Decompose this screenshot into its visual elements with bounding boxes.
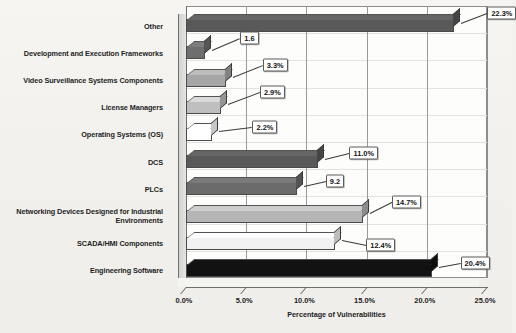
category-label-license-managers: License Managers xyxy=(0,103,163,112)
x-tick-label-100: 10.0% xyxy=(294,296,315,305)
bar-2 xyxy=(186,74,226,87)
data-label-scada-hmi-components: 12.4% xyxy=(366,239,395,252)
bar-6 xyxy=(186,182,297,195)
bar-top-face xyxy=(187,14,461,20)
gridline-15-0% xyxy=(367,6,368,278)
bar-top-face xyxy=(187,150,325,156)
x-tick-label-00: 0.0% xyxy=(176,296,193,305)
x-tick-mark xyxy=(240,287,247,294)
gridline-25-0% xyxy=(487,6,488,278)
x-axis-line xyxy=(186,287,488,288)
x-tick-label-200: 20.0% xyxy=(414,296,435,305)
data-label-development-and-execution-frameworks: 1.6 xyxy=(240,31,258,44)
data-label-networking-devices-designed-for-industrial-environments: 14.7% xyxy=(392,196,421,209)
data-label-plcs: 9.2 xyxy=(326,174,344,187)
bar-0 xyxy=(186,19,454,32)
category-label-operating-systems-os: Operating Systems (OS) xyxy=(0,130,163,139)
bar-7 xyxy=(186,210,363,223)
plot-floor xyxy=(178,278,479,287)
data-label-other: 22.3% xyxy=(487,6,516,19)
data-label-dcs: 11.0% xyxy=(349,146,378,159)
category-label-networking-devices-designed-for-industrial-environments: Networking Devices Designed for Industri… xyxy=(0,207,163,225)
category-separator xyxy=(186,60,487,61)
bar-4 xyxy=(186,128,212,141)
bar-top-face xyxy=(187,232,342,238)
category-label-plcs: PLCs xyxy=(0,184,163,193)
x-tick-label-150: 15.0% xyxy=(354,296,375,305)
data-label-license-managers: 2.9% xyxy=(260,86,285,99)
category-separator xyxy=(186,142,487,143)
bar-1 xyxy=(186,46,205,59)
x-tick-mark xyxy=(421,287,428,294)
category-label-other: Other xyxy=(0,21,163,30)
data-label-operating-systems-os: 2.2% xyxy=(252,121,277,134)
category-separator xyxy=(186,33,487,34)
bar-9 xyxy=(186,264,432,277)
category-separator xyxy=(186,251,487,252)
x-tick-mark xyxy=(481,287,488,294)
category-separator xyxy=(186,224,487,225)
category-separator xyxy=(186,169,487,170)
category-separator xyxy=(186,88,487,89)
x-tick-mark xyxy=(180,287,187,294)
x-tick-label-250: 25.0% xyxy=(475,296,496,305)
category-label-engineering-software: Engineering Software xyxy=(0,266,163,275)
x-tick-mark xyxy=(361,287,368,294)
data-label-video-surveillance-systems-components: 3.3% xyxy=(263,59,288,72)
category-label-dcs: DCS xyxy=(0,157,163,166)
x-tick-label-50: 5.0% xyxy=(236,296,253,305)
bar-8 xyxy=(186,237,335,250)
category-separator xyxy=(186,196,487,197)
gridline-20-0% xyxy=(427,6,428,278)
bar-5 xyxy=(186,155,318,168)
x-tick-mark xyxy=(301,287,308,294)
bar-top-face xyxy=(187,205,370,211)
category-label-video-surveillance-systems-components: Video Surveillance Systems Components xyxy=(0,76,163,85)
data-label-engineering-software: 20.4% xyxy=(461,257,490,270)
category-label-scada-hmi-components: SCADA/HMI Components xyxy=(0,239,163,248)
bar-3 xyxy=(186,101,221,114)
bar-top-face xyxy=(187,177,303,183)
x-axis-title: Percentage of Vulnerabilities xyxy=(186,310,487,319)
category-label-development-and-execution-frameworks: Development and Execution Frameworks xyxy=(0,48,163,57)
category-separator xyxy=(186,115,487,116)
bar-top-face xyxy=(187,259,438,265)
